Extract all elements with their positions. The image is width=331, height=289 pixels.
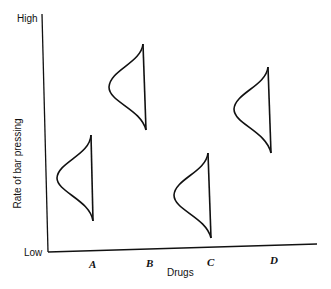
- category-d: D: [270, 255, 278, 265]
- distribution-d: [234, 67, 271, 153]
- distribution-b: [109, 44, 146, 130]
- y-axis: [42, 14, 48, 252]
- category-c: C: [207, 257, 214, 267]
- x-axis: [48, 244, 317, 252]
- x-axis-label: Drugs: [167, 268, 194, 278]
- y-tick-high: High: [17, 14, 38, 24]
- y-axis-label: Rate of bar pressing: [12, 109, 23, 219]
- y-tick-low: Low: [24, 248, 42, 258]
- category-a: A: [89, 259, 96, 269]
- distribution-c: [174, 153, 211, 238]
- category-b: B: [146, 258, 153, 268]
- diagram-canvas: [0, 0, 331, 289]
- distribution-a: [57, 135, 93, 221]
